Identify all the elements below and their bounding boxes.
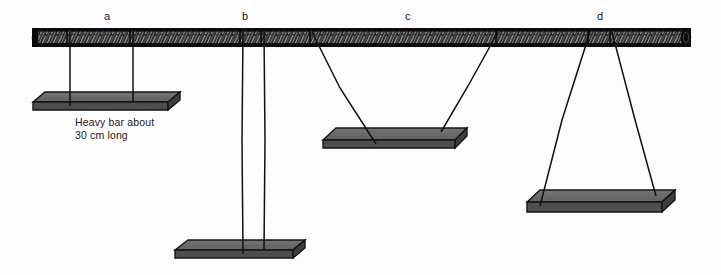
beam-right-endcap-icon (681, 29, 691, 47)
group-d-bar (527, 190, 675, 212)
group-label-a: a (104, 11, 110, 22)
beam-bottom-edge (33, 43, 690, 46)
group-c-bar (323, 128, 467, 148)
group-d-string-left (540, 32, 590, 206)
group-b-string-right (264, 32, 265, 250)
group-label-c: c (405, 11, 411, 22)
group-a-bar-front-face (33, 102, 168, 110)
group-b-bar (175, 240, 305, 258)
figure-container: a b c d Heavy bar about 30 cm long (0, 0, 721, 275)
hanging-group-c (310, 30, 498, 148)
beam-left-endcap-icon (32, 29, 38, 47)
group-b-string-left (242, 32, 243, 254)
group-b-bar-top-face (175, 240, 305, 250)
group-d-bar-front-face (527, 202, 662, 212)
group-c-bar-front-face (323, 140, 455, 148)
group-label-d: d (597, 11, 603, 22)
group-b-bar-front-face (175, 250, 293, 258)
group-c-string-left (312, 32, 376, 144)
group-label-b: b (242, 11, 248, 22)
group-a-bar-top-face (33, 92, 180, 102)
group-a-bar (33, 92, 180, 110)
group-d-string-right (612, 32, 656, 196)
group-c-bar-top-face (323, 128, 467, 140)
hanging-group-b (175, 30, 305, 258)
beam-top-edge (33, 29, 690, 32)
heavy-bar-caption: Heavy bar about 30 cm long (75, 116, 154, 142)
group-d-bar-top-face (527, 190, 675, 202)
hanging-group-d (527, 30, 675, 212)
